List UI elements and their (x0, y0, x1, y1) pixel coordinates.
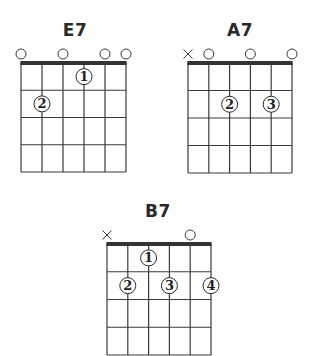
finger-dot: 2 (120, 278, 136, 294)
open-string-icon (121, 49, 131, 59)
open-string-icon (185, 230, 195, 240)
open-string-icon (16, 49, 26, 59)
nut (187, 61, 292, 65)
open-string-icon (287, 49, 297, 59)
fretboard-grid: 23 (157, 0, 314, 180)
finger-dot: 3 (263, 96, 279, 112)
finger-dot: 4 (203, 278, 219, 294)
open-string-icon (204, 49, 214, 59)
finger-number: 2 (123, 278, 132, 293)
finger-number: 1 (144, 250, 153, 265)
nut (20, 61, 126, 65)
muted-string-icon (103, 231, 112, 240)
finger-dot: 1 (76, 69, 92, 85)
chord-diagram-e7: E7 12 (0, 0, 157, 180)
nut (106, 242, 211, 246)
finger-number: 2 (37, 96, 46, 111)
fretboard-grid: 1234 (80, 180, 240, 356)
finger-number: 4 (206, 278, 215, 293)
open-string-icon (245, 49, 255, 59)
open-string-icon (100, 49, 110, 59)
chord-diagram-a7: A7 23 (157, 0, 314, 180)
finger-dot: 1 (141, 250, 157, 266)
fretboard-grid: 12 (0, 0, 157, 180)
finger-number: 3 (165, 278, 174, 293)
finger-dot: 2 (34, 96, 50, 112)
finger-dot: 3 (161, 278, 177, 294)
finger-dot: 2 (222, 96, 238, 112)
finger-number: 3 (267, 97, 276, 112)
finger-number: 2 (225, 97, 234, 112)
muted-string-icon (184, 50, 193, 59)
chord-diagram-b7: B7 1234 (80, 180, 240, 356)
open-string-icon (58, 49, 68, 59)
finger-number: 1 (79, 69, 88, 84)
